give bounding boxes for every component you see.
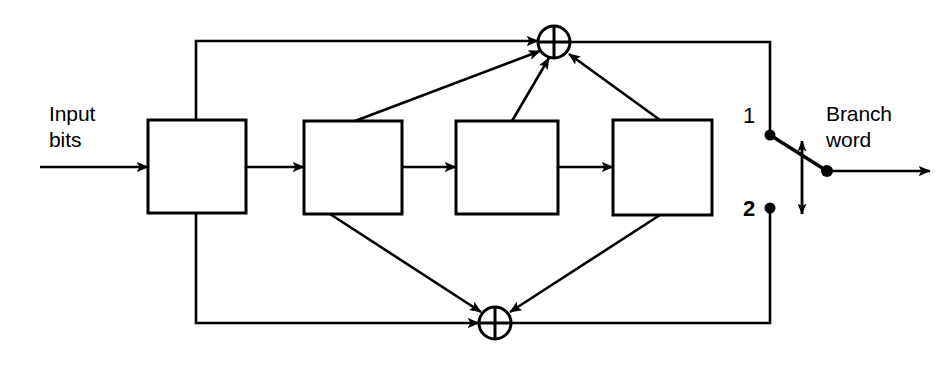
register-stage-4 bbox=[613, 120, 712, 215]
lower-xor-to-terminal-2 bbox=[511, 208, 770, 323]
stage3-top-to-upper-xor bbox=[512, 58, 549, 121]
switch-pivot-dot[interactable] bbox=[821, 165, 833, 177]
figure-canvas: Input bits Branch word 1 2 bbox=[0, 0, 948, 365]
lower-modulo2-adder bbox=[479, 307, 511, 339]
stage2-bottom-to-lower-xor bbox=[330, 214, 481, 312]
switch-blade[interactable] bbox=[770, 135, 827, 171]
input-tap-to-upper-xor bbox=[196, 41, 538, 120]
lower-adder-inputs bbox=[196, 213, 660, 323]
output-commutator-switch[interactable] bbox=[765, 130, 834, 215]
stage2-top-to-upper-xor bbox=[355, 51, 540, 121]
stage4-top-to-upper-xor bbox=[569, 54, 660, 120]
terminal-2-dot[interactable] bbox=[765, 203, 776, 214]
register-stage-3 bbox=[456, 121, 558, 214]
upper-adder-inputs bbox=[196, 41, 660, 121]
branch-word-label: Branch word bbox=[826, 101, 892, 152]
register-stage-2 bbox=[304, 121, 402, 214]
stage4-bottom-to-lower-xor bbox=[510, 215, 660, 312]
input-tap-to-lower-xor bbox=[196, 213, 479, 323]
terminal-1-label: 1 bbox=[743, 103, 755, 130]
terminal-2-label: 2 bbox=[743, 196, 755, 223]
convolutional-encoder-diagram bbox=[0, 0, 948, 365]
input-bits-label: Input bits bbox=[49, 101, 95, 152]
adder-output-lines bbox=[511, 42, 770, 323]
upper-modulo2-adder bbox=[538, 26, 570, 58]
register-stage-1 bbox=[148, 120, 246, 213]
